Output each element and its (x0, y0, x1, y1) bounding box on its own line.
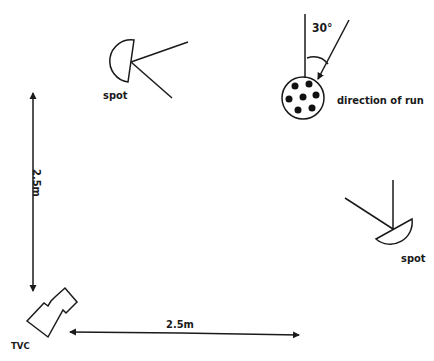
angle-arc (307, 57, 328, 64)
subject-dot (309, 105, 316, 112)
spot-top-label: spot (103, 89, 128, 102)
spot-right-beam-diagonal (345, 198, 393, 229)
direction-label: direction of run (337, 94, 424, 107)
spot-right: spot (345, 180, 426, 265)
angle-label: 30° (312, 21, 332, 35)
horizontal-measurement: 2.5m (70, 318, 299, 335)
camera-icon (27, 288, 77, 337)
subject-dot (313, 92, 320, 99)
lighting-diagram: spot 30° direction of run spot 2.5m TVC (0, 0, 434, 361)
subject-dot (295, 107, 302, 114)
spot-top: spot (103, 40, 188, 102)
spot-right-lamp-icon (376, 219, 412, 244)
camera-label: TVC (11, 340, 30, 351)
spot-top-lamp-icon (110, 40, 134, 82)
camera: TVC (11, 288, 77, 351)
spot-top-beam-lower (131, 62, 172, 98)
vertical-measurement: 2.5m (30, 93, 43, 291)
spot-right-label: spot (401, 252, 426, 265)
subject-dot (286, 96, 293, 103)
subject-dot (300, 94, 307, 101)
vertical-distance-label: 2.5m (30, 169, 43, 197)
subject-dot (292, 83, 299, 90)
subject-dot (306, 81, 313, 88)
horizontal-distance-label: 2.5m (166, 318, 194, 331)
spot-top-beam-upper (131, 42, 188, 62)
horizontal-arrow (180, 333, 299, 335)
subject: 30° direction of run (282, 14, 424, 119)
horizontal-arrow (70, 332, 180, 333)
